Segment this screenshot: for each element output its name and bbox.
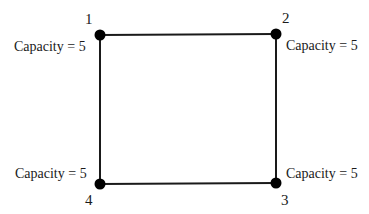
node-3-capacity: Capacity = 5	[286, 166, 358, 181]
node-4-label: 4	[85, 192, 93, 208]
node-2	[271, 29, 282, 40]
node-2-capacity: Capacity = 5	[286, 38, 358, 53]
node-4-capacity: Capacity = 5	[15, 166, 87, 181]
edge-3-4	[100, 183, 276, 184]
node-3-label: 3	[281, 192, 289, 208]
edge-1-2	[100, 34, 276, 35]
node-3	[271, 178, 282, 189]
node-1-capacity: Capacity = 5	[14, 39, 86, 54]
node-1-label: 1	[85, 11, 93, 27]
node-2-label: 2	[282, 10, 290, 26]
node-4	[95, 179, 106, 190]
node-1	[95, 30, 106, 41]
network-diagram: 1 2 3 4 Capacity = 5 Capacity = 5 Capaci…	[0, 0, 369, 214]
